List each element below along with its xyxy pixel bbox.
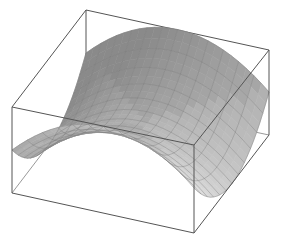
saddle-surface [12,27,269,197]
saddle-surface-plot [0,0,281,243]
plot-canvas [0,0,281,243]
box-edge [12,193,194,233]
